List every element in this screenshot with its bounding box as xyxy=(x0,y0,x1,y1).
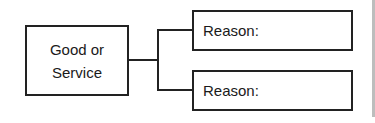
good-or-service-label: Good or Service xyxy=(50,38,104,84)
reason-label-1: Reason: xyxy=(203,22,259,39)
reason-label-2: Reason: xyxy=(203,82,259,99)
connector-main xyxy=(128,59,158,61)
main-node-line-1: Good or xyxy=(50,38,104,61)
connector-split xyxy=(157,29,159,91)
connector-bottom-branch xyxy=(157,89,193,91)
main-node-line-2: Service xyxy=(50,61,104,84)
connector-top-branch xyxy=(157,29,193,31)
reason-box-2: Reason: xyxy=(192,70,353,111)
good-or-service-node: Good or Service xyxy=(25,25,129,96)
reason-box-1: Reason: xyxy=(192,10,353,51)
